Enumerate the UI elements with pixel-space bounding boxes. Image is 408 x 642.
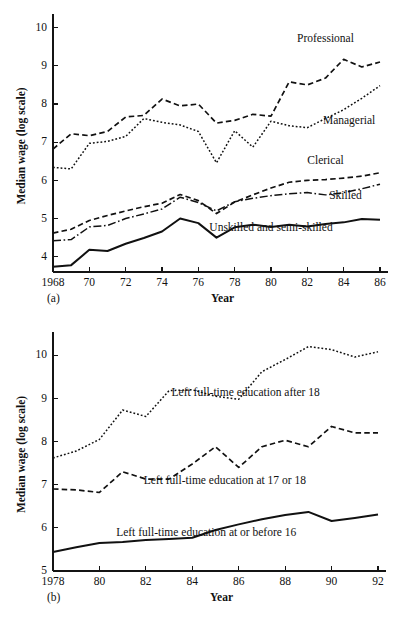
y-tick-label: 9 [41,392,47,404]
x-axis-title: Year [210,591,233,603]
y-tick-label: 9 [41,59,47,71]
x-tick-label: 92 [372,575,384,587]
panel-letter: (b) [47,591,61,604]
x-tick-label: 86 [374,276,386,288]
series-label-skilled: Skilled [329,189,362,201]
x-tick-label: 72 [120,276,132,288]
y-tick-label: 6 [41,521,47,533]
x-tick-label: 80 [265,276,277,288]
y-axis-title: Median wage (log scale) [15,396,28,513]
x-tick-label: 76 [193,276,205,288]
series-label-left-full-time-education-at-17-or-18: Left full-time education at 17 or 18 [144,474,306,486]
panel-letter: (a) [47,292,60,305]
x-tick-label: 1968 [42,276,65,288]
series-label-professional: Professional [297,32,354,44]
x-tick-label: 90 [326,575,338,587]
plot-area: 5678910197880828486889092Left full-time … [15,332,386,604]
y-tick-label: 10 [36,348,48,360]
x-tick-label: 1978 [42,575,65,587]
x-tick-label: 82 [140,575,152,587]
y-tick-label: 8 [41,97,47,109]
y-tick-label: 7 [41,478,47,490]
series-label-left-full-time-education-at-or-before-16: Left full-time education at or before 16 [116,526,296,538]
x-tick-label: 84 [187,575,199,587]
chart-b-canvas: 5678910197880828486889092Left full-time … [0,310,408,642]
series-label-managerial: Managerial [323,114,375,127]
x-tick-label: 82 [302,276,314,288]
x-axis-title: Year [211,292,234,304]
y-tick-label: 7 [41,135,47,147]
x-tick-label: 84 [338,276,350,288]
y-tick-label: 10 [36,21,48,33]
y-tick-label: 6 [41,174,47,186]
x-tick-label: 74 [156,276,168,288]
y-tick-label: 5 [41,212,47,224]
x-tick-label: 80 [94,575,106,587]
x-tick-label: 70 [84,276,96,288]
y-axis-title: Median wage (log scale) [15,87,28,204]
y-tick-label: 4 [41,250,47,262]
y-tick-label: 8 [41,435,47,447]
plot-area: 456789101968707274767880828486Profession… [15,14,388,305]
x-tick-label: 86 [233,575,245,587]
series-label-left-full-time-education-after-18: Left full-time education after 18 [172,386,320,398]
series-label-unskilled-and-semi-skilled: Unskilled and semi-skilled [209,221,333,233]
series-line-left-full-time-education-after-18 [53,347,378,458]
figure-root: 456789101968707274767880828486Profession… [0,0,408,642]
series-label-clerical: Clerical [307,154,343,166]
chart-panel-b: 5678910197880828486889092Left full-time … [0,310,408,642]
chart-a-canvas: 456789101968707274767880828486Profession… [0,0,408,310]
series-line-professional [53,59,380,149]
x-tick-label: 78 [229,276,241,288]
x-tick-label: 88 [279,575,291,587]
chart-panel-a: 456789101968707274767880828486Profession… [0,0,408,310]
